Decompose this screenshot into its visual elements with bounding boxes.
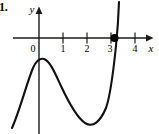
x-tick-label-3: 3: [108, 43, 113, 54]
x-tick-label-1: 1: [61, 43, 66, 54]
x-axis-arrowhead: [146, 35, 154, 42]
origin-tick-label: 0: [31, 43, 36, 54]
y-axis-arrowhead: [36, 7, 43, 15]
y-axis-label: y: [29, 3, 35, 15]
cubic-curve: [12, 2, 119, 128]
x-tick-label-4: 4: [133, 43, 138, 54]
x-axis-label: x: [148, 42, 154, 54]
cartesian-plot: 0 1 2 3 4 x y: [0, 0, 159, 134]
graph-figure: 1. 0 1 2 3 4 x y: [0, 0, 159, 134]
x-tick-label-2: 2: [85, 43, 90, 54]
x-intercept-point: [111, 34, 119, 42]
